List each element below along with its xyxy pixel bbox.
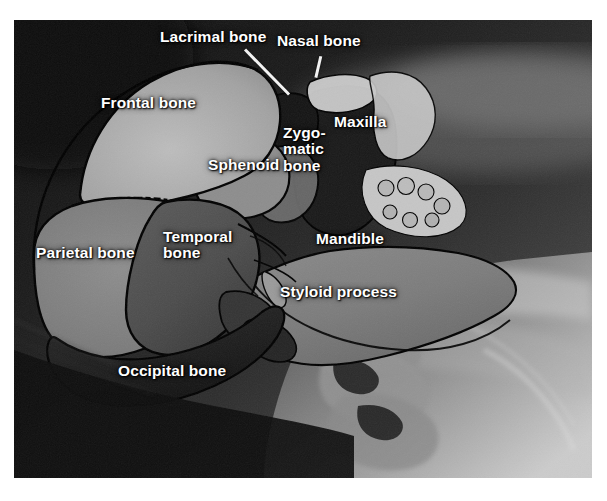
skull-xray-illustration <box>14 20 592 478</box>
figure-root: Lacrimal bone Nasal bone Frontal bone Ma… <box>0 0 607 501</box>
skull-radiograph-image: Lacrimal bone Nasal bone Frontal bone Ma… <box>14 20 592 478</box>
